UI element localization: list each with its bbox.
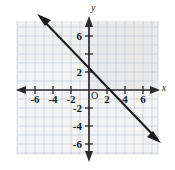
y-tick-label-2: 2 bbox=[77, 66, 83, 78]
y-tick-label-neg6: -6 bbox=[73, 138, 83, 150]
coordinate-plane-figure: -6 -4 -2 2 4 6 6 2 -2 -4 -6 O x y bbox=[0, 0, 175, 170]
y-tick-label-6: 6 bbox=[77, 30, 83, 42]
x-tick-label-2: 2 bbox=[104, 93, 110, 105]
y-axis-down-arrowhead bbox=[85, 151, 93, 162]
y-axis-name-label: y bbox=[90, 2, 96, 13]
x-tick-label-neg4: -4 bbox=[48, 93, 58, 105]
x-tick-label-neg6: -6 bbox=[30, 93, 40, 105]
y-tick-label-neg2: -2 bbox=[73, 102, 83, 114]
x-axis-name-label: x bbox=[161, 82, 167, 93]
y-tick-label-neg4: -4 bbox=[73, 120, 83, 132]
x-tick-label-4: 4 bbox=[122, 93, 128, 105]
x-tick-label-6: 6 bbox=[140, 93, 146, 105]
graph-screenshot: -6 -4 -2 2 4 6 6 2 -2 -4 -6 O x y bbox=[0, 0, 175, 170]
origin-label: O bbox=[91, 90, 98, 101]
